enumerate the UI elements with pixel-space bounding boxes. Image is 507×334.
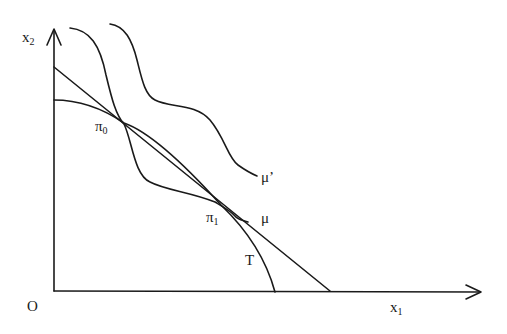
x-axis: [54, 291, 480, 292]
origin-label: O: [27, 299, 38, 314]
x-axis-label: x1: [390, 300, 403, 315]
y-axis-label-text: x: [22, 29, 30, 45]
price-line: [54, 67, 330, 291]
x-axis-label-subscript: 1: [398, 306, 403, 317]
curve-mu-prime-label: μ’: [261, 170, 274, 185]
y-axis-label: x2: [22, 30, 35, 45]
indifference-curve-mu-prime: [110, 24, 257, 176]
pi1-subscript: 1: [214, 216, 219, 227]
diagram-canvas: [0, 0, 507, 334]
diagram: x2 x1 O π0 π1 μ μ’ T: [0, 0, 507, 334]
curve-mu-label: μ: [261, 211, 269, 226]
x-axis-label-text: x: [390, 299, 398, 315]
pi0-symbol: π: [95, 118, 103, 134]
curve-T-label: T: [245, 253, 254, 268]
pi1-symbol: π: [206, 209, 214, 225]
pi0-subscript: 0: [103, 125, 108, 136]
point-pi0-label: π0: [95, 119, 108, 134]
transformation-curve-T: [54, 100, 275, 292]
point-pi1-label: π1: [206, 210, 219, 225]
y-axis-label-subscript: 2: [30, 36, 35, 47]
